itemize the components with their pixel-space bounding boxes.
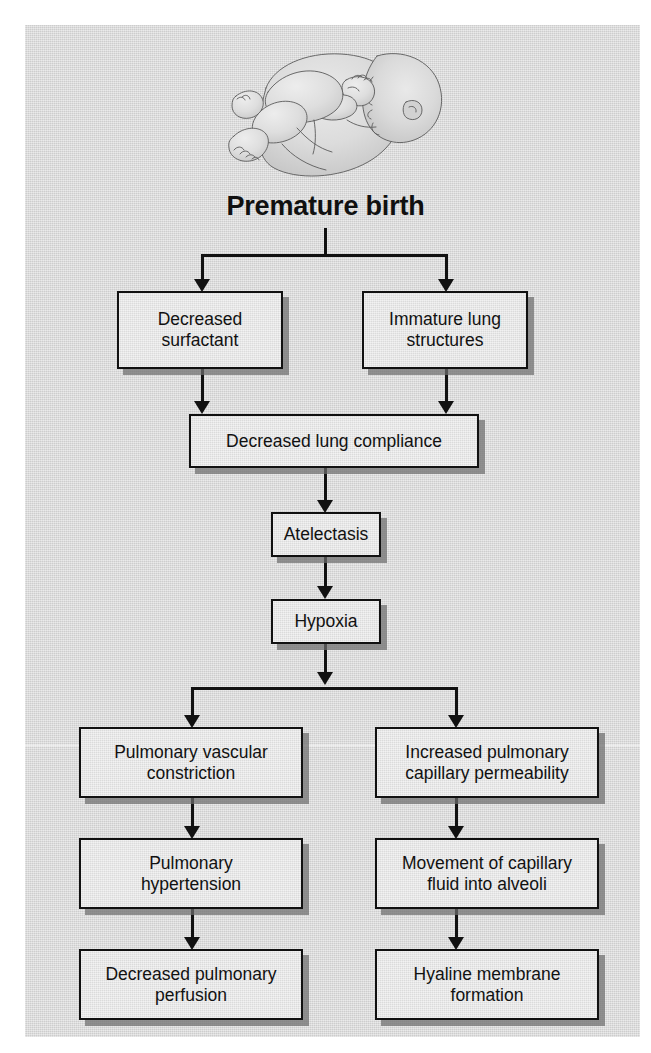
connector-hypertension-to-perfusion	[191, 909, 194, 939]
connector-to-immature-lung	[445, 254, 448, 281]
connector-atelectasis-to-hypoxia	[324, 557, 327, 589]
node-movement-of-capillary-fluid[interactable]: Movement of capillary fluid into alveoli	[375, 838, 599, 909]
node-movement-of-capillary-fluid-label: Movement of capillary fluid into alveoli	[383, 853, 591, 895]
connector-premature-birth-split	[201, 254, 448, 257]
node-decreased-lung-compliance-label: Decreased lung compliance	[197, 431, 471, 452]
node-immature-lung-structures[interactable]: Immature lung structures	[362, 291, 528, 369]
node-hypoxia[interactable]: Hypoxia	[271, 599, 381, 644]
node-pulmonary-vascular-constriction-label: Pulmonary vascular constriction	[87, 742, 295, 784]
node-hyaline-membrane-formation-label: Hyaline membrane formation	[383, 964, 591, 1006]
node-pulmonary-hypertension[interactable]: Pulmonary hypertension	[79, 838, 303, 909]
connector-premature-birth-stem	[324, 228, 327, 255]
node-decreased-surfactant-label: Decreased surfactant	[125, 309, 275, 351]
arrowhead-surfactant-to-compliance	[194, 401, 210, 414]
node-pulmonary-hypertension-label: Pulmonary hypertension	[87, 853, 295, 895]
node-atelectasis[interactable]: Atelectasis	[271, 512, 381, 557]
connector-permeability-to-fluid	[455, 798, 458, 828]
connector-surfactant-to-compliance	[201, 369, 204, 403]
arrowhead-hypoxia-stem	[317, 672, 333, 685]
connector-constriction-to-hypertension	[191, 798, 194, 828]
page-title: Premature birth	[0, 191, 651, 222]
connector-hypoxia-stem	[324, 644, 327, 674]
connector-compliance-to-atelectasis	[324, 468, 327, 502]
node-immature-lung-structures-label: Immature lung structures	[370, 309, 520, 351]
connector-to-vascular-constriction	[191, 687, 194, 717]
flowchart-figure: Premature birth Decreased surfactant Imm…	[0, 0, 651, 1053]
node-hyaline-membrane-formation[interactable]: Hyaline membrane formation	[375, 949, 599, 1020]
node-increased-pulmonary-capillary-permeability-label: Increased pulmonary capillary permeabili…	[383, 742, 591, 784]
arrowhead-immature-to-compliance	[438, 401, 454, 414]
node-decreased-pulmonary-perfusion-label: Decreased pulmonary perfusion	[87, 964, 295, 1006]
connector-hypoxia-split	[191, 687, 458, 690]
connector-fluid-to-hyaline	[455, 909, 458, 939]
node-increased-pulmonary-capillary-permeability[interactable]: Increased pulmonary capillary permeabili…	[375, 727, 599, 798]
node-decreased-lung-compliance[interactable]: Decreased lung compliance	[189, 414, 479, 468]
premature-newborn-illustration	[196, 28, 464, 196]
node-atelectasis-label: Atelectasis	[279, 524, 373, 545]
node-decreased-pulmonary-perfusion[interactable]: Decreased pulmonary perfusion	[79, 949, 303, 1020]
node-pulmonary-vascular-constriction[interactable]: Pulmonary vascular constriction	[79, 727, 303, 798]
connector-immature-to-compliance	[445, 369, 448, 403]
connector-to-decreased-surfactant	[201, 254, 204, 281]
connector-to-capillary-permeability	[455, 687, 458, 717]
node-hypoxia-label: Hypoxia	[279, 611, 373, 632]
arrowhead-atelectasis-to-hypoxia	[317, 586, 333, 599]
node-decreased-surfactant[interactable]: Decreased surfactant	[117, 291, 283, 369]
